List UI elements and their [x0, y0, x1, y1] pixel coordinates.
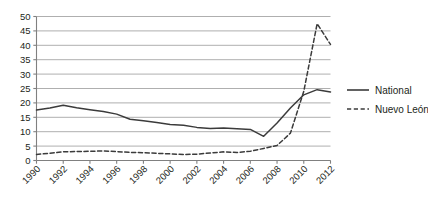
line-chart: 05101520253035404550 1990199219941996199… [0, 0, 428, 205]
y-tick-label: 20 [20, 97, 31, 108]
x-tick-label: 2008 [260, 163, 283, 186]
y-tick-label: 35 [20, 54, 31, 65]
x-axis-tick-labels: 1990199219941996199820002002200420062008… [20, 163, 337, 186]
x-tick-label: 2002 [180, 163, 203, 186]
chart-legend: NationalNuevo León [347, 85, 428, 115]
series-line-national [37, 90, 331, 137]
y-tick-label: 45 [20, 25, 31, 36]
x-tick-label: 1996 [100, 163, 123, 186]
x-tick-label: 2000 [153, 163, 176, 186]
x-tick-label: 1994 [73, 163, 96, 186]
y-tick-label: 40 [20, 40, 31, 51]
y-tick-label: 15 [20, 112, 31, 123]
x-tick-label: 1992 [46, 163, 69, 186]
data-series-group [37, 24, 331, 155]
y-tick-label: 5 [25, 141, 30, 152]
x-tick-label: 2006 [234, 163, 257, 186]
x-tick-label: 1998 [127, 163, 150, 186]
y-tick-label: 25 [20, 83, 31, 94]
y-tick-label: 10 [20, 126, 31, 137]
x-tick-label: 2012 [314, 163, 337, 186]
legend-label-national: National [375, 85, 412, 96]
legend-label-nuevo-leon: Nuevo León [375, 104, 428, 115]
y-tick-label: 30 [20, 69, 31, 80]
x-tick-label: 2010 [287, 163, 310, 186]
y-tick-label: 0 [25, 155, 30, 166]
y-tick-label: 50 [20, 11, 31, 22]
x-tick-label: 1990 [20, 163, 43, 186]
gridlines-group [37, 17, 331, 161]
x-tick-label: 2004 [207, 163, 230, 186]
chart-canvas: 05101520253035404550 1990199219941996199… [0, 0, 428, 205]
y-axis-tick-labels: 05101520253035404550 [20, 11, 31, 166]
series-line-nuevo-leon [37, 24, 331, 155]
